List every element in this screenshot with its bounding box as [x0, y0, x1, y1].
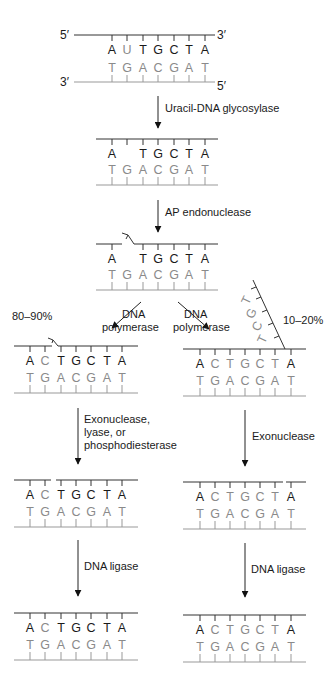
enzyme-label: lyase, or [84, 426, 126, 438]
base: G [210, 640, 220, 654]
base: T [201, 268, 209, 282]
base-new: C [255, 490, 264, 504]
base: G [86, 638, 96, 652]
base: T [108, 268, 116, 282]
base: T [57, 621, 65, 635]
base: T [201, 61, 209, 75]
base: C [153, 61, 162, 75]
base: T [139, 252, 147, 266]
enzyme-label: Exonuclease [252, 430, 315, 442]
base: T [103, 354, 111, 368]
base: T [196, 507, 204, 521]
base: A [185, 163, 194, 177]
left-duplex-final: A C T G C T A T G A C G A T [14, 613, 138, 660]
duplex-nicked: A T G C T A T G A C G A T [96, 233, 218, 290]
base: G [40, 638, 50, 652]
base: G [153, 252, 163, 266]
base-new: C [210, 490, 219, 504]
base: T [108, 163, 116, 177]
base: A [103, 505, 112, 519]
base: C [86, 354, 95, 368]
base: C [169, 147, 178, 161]
enzyme-label: DNA [184, 308, 208, 320]
base: A [287, 357, 296, 371]
five-prime-label-top: 5′ [60, 28, 70, 42]
base: T [57, 488, 65, 502]
base: A [139, 268, 148, 282]
base: G [86, 371, 96, 385]
base: G [169, 61, 179, 75]
base: G [122, 268, 132, 282]
base: C [240, 640, 249, 654]
base: T [139, 43, 147, 57]
base: T [139, 147, 147, 161]
base: G [255, 640, 265, 654]
base: A [201, 147, 210, 161]
base-uracil: U [122, 43, 131, 57]
base: C [169, 252, 178, 266]
base: T [26, 638, 34, 652]
base: T [287, 640, 295, 654]
base: A [139, 163, 148, 177]
base: A [271, 374, 280, 388]
base: A [226, 507, 235, 521]
base: A [118, 354, 127, 368]
enzyme-label: polymerase [173, 321, 230, 333]
base: G [153, 43, 163, 57]
base: C [153, 163, 162, 177]
five-prime-label-bottom: 5′ [217, 79, 227, 93]
base-new: C [40, 354, 49, 368]
base-new: T [271, 623, 279, 637]
duplex-abasic-site: A T G C T A T G A C G A T [96, 139, 218, 185]
base-new: C [255, 357, 264, 371]
base: A [226, 640, 235, 654]
enzyme-label: Uracil-DNA glycosylase [165, 102, 279, 114]
flap-base: T [254, 333, 270, 346]
base: T [57, 354, 65, 368]
base: T [196, 640, 204, 654]
right-duplex-after-polymerase: T C G T A C T G C T A T G A C G A T [183, 280, 306, 396]
base-new: G [240, 490, 250, 504]
enzyme-label: phosphodiesterase [84, 439, 177, 451]
enzyme-label: DNA [122, 308, 146, 320]
base-new: C [210, 623, 219, 637]
base: C [153, 268, 162, 282]
base: A [57, 371, 66, 385]
base: T [26, 371, 34, 385]
base: G [122, 61, 132, 75]
base-new: C [255, 623, 264, 637]
base: C [71, 505, 80, 519]
right-duplex-final: A C T G C T A T G A C G A T [183, 615, 306, 662]
base: A [271, 507, 280, 521]
base: G [122, 163, 132, 177]
base: T [118, 638, 126, 652]
base: A [26, 488, 35, 502]
base: A [103, 638, 112, 652]
top-strand-ticks [112, 35, 205, 41]
base: A [108, 147, 117, 161]
three-prime-label-top: 3′ [217, 28, 227, 42]
base: C [240, 507, 249, 521]
base-new: T [271, 490, 279, 504]
enzyme-label: AP endonuclease [165, 206, 251, 218]
base-new: T [226, 357, 234, 371]
base: A [271, 640, 280, 654]
base: G [153, 147, 163, 161]
duplex-initial: 5′ 3′ A U T G C T A T G A C G A T 3′ 5′ [60, 28, 227, 93]
base: T [287, 374, 295, 388]
base: C [240, 374, 249, 388]
left-duplex-after-excision: A C T G C T A T G A C G A T [14, 480, 138, 527]
right-branch-percentage: 10–20% [283, 314, 324, 326]
enzyme-label: DNA ligase [251, 563, 305, 575]
base: A [118, 488, 127, 502]
base-new: C [40, 621, 49, 635]
base: T [196, 374, 204, 388]
base: T [26, 505, 34, 519]
base: A [196, 623, 205, 637]
base: A [226, 374, 235, 388]
base: T [108, 61, 116, 75]
base: G [40, 371, 50, 385]
base-new: C [40, 488, 49, 502]
flap-base: T [238, 294, 254, 307]
three-prime-label-bottom: 3′ [60, 75, 70, 89]
